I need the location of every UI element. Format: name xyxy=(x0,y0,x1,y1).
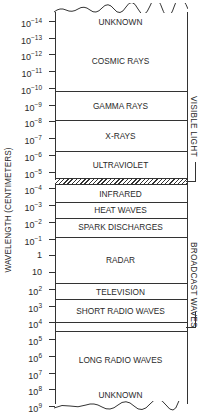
visible-light-leader xyxy=(195,162,196,182)
axis-tick: 10−14 xyxy=(0,15,56,27)
axis-tick: 10−5 xyxy=(0,166,56,178)
tick-label: 103 xyxy=(28,300,42,315)
tick-label: 10−9 xyxy=(25,99,42,114)
band-label: UNKNOWN xyxy=(55,390,186,400)
tick-label: 104 xyxy=(28,316,42,331)
band-divider xyxy=(55,218,187,219)
tick-label: 10−4 xyxy=(25,182,42,197)
band-divider xyxy=(55,331,187,332)
top-torn-edge xyxy=(54,3,188,13)
visible-light-band xyxy=(55,178,187,185)
band-divider xyxy=(55,91,187,92)
tick-label: 10−1 xyxy=(25,233,42,248)
band-label: HEAT WAVES xyxy=(55,205,186,215)
band-label: X-RAYS xyxy=(55,131,186,141)
band-label: COSMIC RAYS xyxy=(55,56,186,66)
band-label: ULTRAVIOLET xyxy=(55,160,186,170)
axis-tick: 10−4 xyxy=(0,182,56,194)
band-label: SPARK DISCHARGES xyxy=(55,222,186,232)
tick-label: 10−10 xyxy=(21,82,42,97)
band-label: UNKNOWN xyxy=(55,17,186,27)
broadcast-waves-label: BROADCAST WAVES xyxy=(189,242,199,328)
bottom-torn-edge xyxy=(54,401,188,411)
axis-tick: 10−1 xyxy=(0,233,56,245)
axis-tick: 1 xyxy=(0,249,56,261)
tick-label: 10−5 xyxy=(25,166,42,181)
band-label: SHORT RADIO WAVES xyxy=(55,306,186,316)
tick-label: 10 xyxy=(32,266,42,278)
tick-label: 109 xyxy=(28,400,42,414)
tick-label: 10−8 xyxy=(25,115,42,130)
band-divider xyxy=(55,237,187,238)
broadcast-waves-leader xyxy=(195,312,196,328)
band-divider xyxy=(55,322,187,323)
axis-tick: 10−11 xyxy=(0,65,56,77)
tick-label: 1 xyxy=(37,249,42,261)
axis-tick: 104 xyxy=(0,316,56,328)
visible-light-label: VISIBLE LIGHT xyxy=(189,96,199,157)
band-divider xyxy=(55,120,187,121)
axis-tick: 108 xyxy=(0,383,56,395)
axis-tick: 10−9 xyxy=(0,99,56,111)
axis-tick: 106 xyxy=(0,350,56,362)
tick-label: 106 xyxy=(28,350,42,365)
tick-label: 108 xyxy=(28,383,42,398)
band-label: RADAR xyxy=(55,255,186,265)
tick-label: 102 xyxy=(28,283,42,298)
axis-tick: 109 xyxy=(0,400,56,412)
axis-tick: 102 xyxy=(0,283,56,295)
axis-tick: 107 xyxy=(0,367,56,379)
band-divider xyxy=(55,202,187,203)
tick-label: 10−6 xyxy=(25,149,42,164)
tick-label: 107 xyxy=(28,367,42,382)
broadcast-waves-arrow xyxy=(186,327,196,328)
band-label: GAMMA RAYS xyxy=(55,101,186,111)
band-label: LONG RADIO WAVES xyxy=(55,355,186,365)
axis-tick: 10−10 xyxy=(0,82,56,94)
visible-light-arrow xyxy=(186,181,196,182)
axis-tick: 103 xyxy=(0,300,56,312)
axis-tick: 10−13 xyxy=(0,32,56,44)
band-label: TELEVISION xyxy=(55,287,186,297)
axis-tick: 10−6 xyxy=(0,149,56,161)
axis-tick: 105 xyxy=(0,333,56,345)
tick-label: 10−3 xyxy=(25,199,42,214)
axis-tick: 10−12 xyxy=(0,48,56,60)
axis-tick: 10−3 xyxy=(0,199,56,211)
axis-tick: 10 xyxy=(0,266,56,278)
tick-label: 10−14 xyxy=(21,15,42,30)
axis-tick: 10−2 xyxy=(0,216,56,228)
band-divider xyxy=(55,283,187,284)
band-divider xyxy=(55,299,187,300)
tick-label: 10−2 xyxy=(25,216,42,231)
tick-label: 10−11 xyxy=(21,65,42,80)
axis-tick: 10−8 xyxy=(0,115,56,127)
tick-label: 10−12 xyxy=(21,48,42,63)
axis-tick: 10−7 xyxy=(0,132,56,144)
tick-label: 10−13 xyxy=(21,32,42,47)
tick-label: 105 xyxy=(28,333,42,348)
band-divider xyxy=(55,151,187,152)
tick-label: 10−7 xyxy=(25,132,42,147)
band-label: INFRARED xyxy=(55,189,186,199)
